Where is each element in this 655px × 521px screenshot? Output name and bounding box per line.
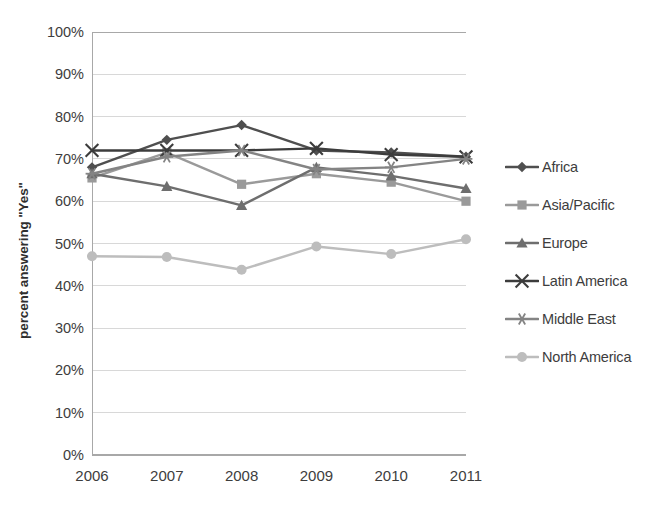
legend-label: Latin America: [542, 273, 627, 289]
x-axis-tick-label: 2007: [150, 467, 183, 484]
legend-marker-diamond-icon: [505, 158, 539, 176]
legend-item-africa[interactable]: Africa: [505, 148, 655, 186]
legend-marker-x-icon: [505, 272, 539, 290]
legend-marker-asterisk-icon: [505, 310, 539, 328]
data-point-marker: [517, 352, 527, 362]
legend-label: Europe: [542, 235, 588, 251]
legend-item-middle-east[interactable]: Middle East: [505, 300, 655, 338]
x-axis-tick-label: 2011: [450, 467, 482, 484]
x-axis-tick-label: 2009: [300, 467, 333, 484]
legend-item-latin-america[interactable]: Latin America: [505, 262, 655, 300]
legend-marker-square-icon: [505, 196, 539, 214]
data-point-marker: [516, 313, 529, 324]
legend-label: North America: [542, 349, 631, 365]
line-chart: percent answering "Yes" 0%10%20%30%40%50…: [0, 0, 655, 521]
legend-label: Africa: [542, 159, 578, 175]
legend-label: Middle East: [542, 311, 616, 327]
legend-marker-circle-icon: [505, 348, 539, 366]
data-point-marker: [517, 162, 527, 172]
x-axis-tick-label: 2010: [375, 467, 408, 484]
legend-label: Asia/Pacific: [542, 197, 615, 213]
data-point-marker: [517, 200, 526, 209]
legend-item-europe[interactable]: Europe: [505, 224, 655, 262]
legend-item-asia-pacific[interactable]: Asia/Pacific: [505, 186, 655, 224]
x-axis-tick-label: 2006: [75, 467, 108, 484]
x-axis-tick-label: 2008: [225, 467, 258, 484]
chart-legend: AfricaAsia/PacificEuropeLatin AmericaMid…: [505, 148, 655, 376]
legend-marker-triangle-icon: [505, 234, 539, 252]
legend-item-north-america[interactable]: North America: [505, 338, 655, 376]
